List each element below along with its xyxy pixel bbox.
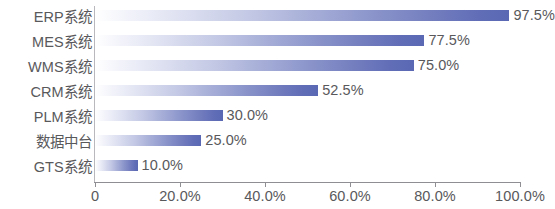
x-axis-line xyxy=(94,182,521,183)
y-axis-label-3: CRM系统 xyxy=(6,85,92,99)
x-axis-tick-label-5: 100.0% xyxy=(487,188,553,204)
bar-0 xyxy=(95,10,509,21)
bar-1 xyxy=(95,35,424,46)
y-axis-label-4: PLM系统 xyxy=(6,110,92,124)
bar-value-label-4: 30.0% xyxy=(227,107,269,123)
x-axis-tick-label-2: 40.0% xyxy=(237,188,293,204)
x-axis-tick-label-0: 0 xyxy=(86,188,104,204)
y-axis-label-1: MES系统 xyxy=(6,35,92,49)
x-axis-tick-2 xyxy=(265,183,266,187)
bar-2 xyxy=(95,60,414,71)
bar-4 xyxy=(95,110,223,121)
bar-3 xyxy=(95,85,318,96)
bar-value-label-1: 77.5% xyxy=(428,32,470,48)
bar-6 xyxy=(95,160,138,171)
bar-value-label-5: 25.0% xyxy=(205,132,247,148)
x-axis-tick-0 xyxy=(95,183,96,187)
y-axis-label-0: ERP系统 xyxy=(6,10,92,24)
bar-value-label-0: 97.5% xyxy=(513,7,555,23)
y-axis-label-2: WMS系统 xyxy=(6,60,92,74)
x-axis-tick-label-4: 80.0% xyxy=(407,188,463,204)
x-axis-tick-5 xyxy=(520,183,521,187)
bar-value-label-2: 75.0% xyxy=(418,57,460,73)
bar-5 xyxy=(95,135,201,146)
y-axis-label-5: 数据中台 xyxy=(6,135,92,149)
x-axis-tick-label-3: 60.0% xyxy=(322,188,378,204)
x-axis-tick-4 xyxy=(435,183,436,187)
bar-value-label-6: 10.0% xyxy=(142,157,184,173)
x-axis-tick-3 xyxy=(350,183,351,187)
y-axis-category-labels: ERP系统 MES系统 WMS系统 CRM系统 PLM系统 数据中台 GTS系统 xyxy=(0,0,92,182)
bar-value-label-3: 52.5% xyxy=(322,82,364,98)
x-axis-tick-1 xyxy=(180,183,181,187)
y-axis-label-6: GTS系统 xyxy=(6,160,92,174)
x-axis-tick-label-1: 20.0% xyxy=(152,188,208,204)
